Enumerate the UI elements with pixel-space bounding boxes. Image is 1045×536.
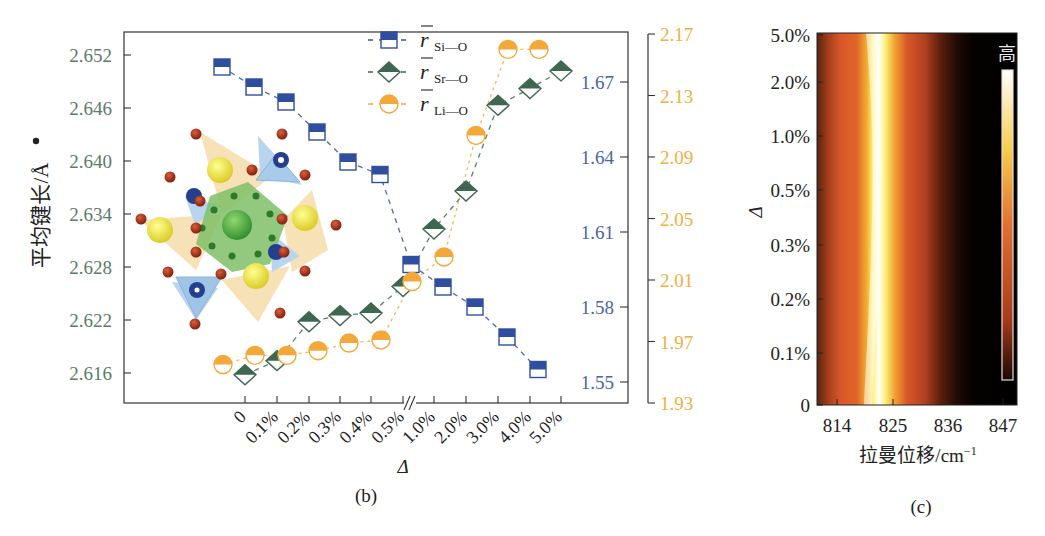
- tick-label: 0: [229, 407, 250, 428]
- half-filled-square-marker: [499, 329, 515, 345]
- tick-label: 814: [823, 415, 852, 436]
- tick-label: 0.5%: [367, 407, 408, 448]
- tick-label: 2.09: [660, 147, 693, 168]
- tick-label: 2.652: [69, 45, 112, 66]
- tick-label: 825: [879, 415, 908, 436]
- tick-label: 0.4%: [335, 407, 376, 448]
- svg-text:Sr—O: Sr—O: [434, 71, 468, 86]
- half-filled-diamond-marker: [298, 312, 320, 332]
- tick-label: 2.616: [69, 363, 112, 384]
- tick-label: 1.58: [581, 297, 614, 318]
- half-filled-diamond-marker: [487, 95, 509, 115]
- tick-label: 0.2%: [273, 407, 314, 448]
- half-filled-circle-marker: [372, 331, 390, 349]
- right-outer-y-axis: 1.931.972.012.052.092.132.17: [648, 24, 693, 414]
- tick-label: 1.64: [581, 147, 615, 168]
- heatmap-panel-c: 高 00.1%0.2%0.3%0.5%1.0%2.0%5.0% 81482583…: [745, 25, 1017, 518]
- tick-label: 3.0%: [462, 407, 503, 448]
- half-filled-square-marker: [372, 167, 388, 183]
- tick-label: 1.0%: [770, 126, 810, 147]
- svg-text:r: r: [420, 91, 429, 116]
- tick-label: 2.628: [69, 257, 112, 278]
- tick-label: 2.646: [69, 98, 112, 119]
- tick-label: 2.13: [660, 86, 693, 107]
- line-chart-panel-b: 2.6162.6222.6282.6342.6402.6462.652 1.55…: [29, 24, 693, 507]
- half-filled-square-marker: [467, 299, 483, 315]
- tick-label: 2.622: [69, 310, 112, 331]
- left-y-axis: 2.6162.6222.6282.6342.6402.6462.652: [69, 45, 131, 384]
- half-filled-square-marker: [214, 59, 230, 75]
- half-filled-diamond-marker: [378, 62, 400, 82]
- half-filled-square-marker: [403, 257, 419, 273]
- half-filled-circle-marker: [530, 40, 548, 58]
- heatmap-x-axis-label: 拉曼位移/cm−1: [859, 444, 976, 466]
- tick-label: 2.17: [660, 24, 693, 45]
- half-filled-circle-marker: [340, 334, 358, 352]
- panel-label-b: (b): [355, 485, 377, 507]
- tick-label: 847: [989, 415, 1018, 436]
- legend-item: rLi—O: [368, 90, 468, 118]
- half-filled-diamond-marker: [519, 79, 541, 99]
- panel-label-c: (c): [910, 496, 931, 518]
- tick-label: 5.0%: [770, 25, 810, 46]
- half-filled-diamond-marker: [234, 365, 256, 385]
- tick-label: 1.93: [660, 393, 693, 414]
- half-filled-diamond-marker: [360, 303, 382, 323]
- tick-label: 2.01: [660, 270, 693, 291]
- half-filled-square-marker: [246, 79, 262, 95]
- axis-break-icon: [404, 396, 416, 410]
- tick-label: 5.0%: [525, 407, 566, 448]
- tick-label: 0.3%: [770, 235, 810, 256]
- tick-label: 836: [934, 415, 963, 436]
- half-filled-diamond-marker: [550, 61, 572, 81]
- half-filled-circle-marker: [403, 273, 421, 291]
- tick-label: 2.05: [660, 209, 693, 230]
- half-filled-square-marker: [381, 32, 397, 48]
- tick-label: 2.0%: [430, 407, 471, 448]
- svg-text:平均键长/Å: 平均键长/Å: [29, 162, 53, 268]
- tick-label: 0.3%: [304, 407, 345, 448]
- tick-label: 2.640: [69, 151, 112, 172]
- tick-label: 0.1%: [770, 343, 810, 364]
- crystal-structure-inset: [136, 129, 342, 330]
- svg-text:Li—O: Li—O: [434, 103, 468, 118]
- tick-label: 2.0%: [770, 72, 810, 93]
- half-filled-square-marker: [435, 279, 451, 295]
- half-filled-circle-marker: [214, 356, 232, 374]
- svg-text:Si—O: Si—O: [434, 39, 467, 54]
- heatmap-image: [817, 33, 1017, 405]
- half-filled-circle-marker: [467, 126, 485, 144]
- half-filled-square-marker: [309, 124, 325, 140]
- tick-label: 0.1%: [241, 407, 282, 448]
- half-filled-square-marker: [340, 154, 356, 170]
- tick-label: 1.97: [660, 332, 693, 353]
- half-filled-circle-marker: [309, 342, 327, 360]
- svg-text:r: r: [420, 59, 429, 84]
- tick-label: 0.2%: [770, 289, 810, 310]
- heatmap-y-axis: 00.1%0.2%0.3%0.5%1.0%2.0%5.0%: [770, 25, 823, 416]
- tick-label: 0: [801, 395, 811, 416]
- half-filled-square-marker: [278, 94, 294, 110]
- legend-item: rSr—O: [368, 58, 468, 86]
- colorbar-high-label: 高: [998, 44, 1016, 64]
- colorbar: [1002, 70, 1013, 380]
- half-filled-circle-marker: [435, 248, 453, 266]
- x-axis-label: Δ: [396, 456, 408, 477]
- half-filled-circle-marker: [499, 40, 517, 58]
- right-inner-y-axis: 1.551.581.611.641.67: [581, 72, 628, 393]
- half-filled-diamond-marker: [455, 181, 477, 201]
- tick-label: 1.67: [581, 72, 614, 93]
- tick-label: 1.55: [581, 372, 614, 393]
- tick-label: 2.634: [69, 204, 112, 225]
- half-filled-circle-marker: [246, 346, 264, 364]
- half-filled-square-marker: [530, 362, 546, 378]
- tick-label: 0.5%: [770, 180, 810, 201]
- legend-item: rSi—O: [368, 26, 467, 54]
- half-filled-diamond-marker: [329, 306, 351, 326]
- tick-label: 4.0%: [494, 407, 535, 448]
- svg-text:r: r: [420, 27, 429, 52]
- tick-label: 1.0%: [398, 407, 439, 448]
- legend: rSi—OrSr—OrLi—O: [368, 26, 468, 118]
- tick-label: 1.61: [581, 222, 614, 243]
- x-axis: 00.1%0.2%0.3%0.4%0.5%1.0%2.0%3.0%4.0%5.0…: [229, 396, 566, 447]
